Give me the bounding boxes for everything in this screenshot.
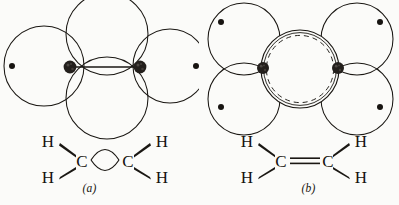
panel-a-bent-bond-model: H H C C H H (a) [0, 0, 199, 205]
hydrogen-proton-top-right [377, 19, 383, 25]
panel-label-a: (a) [0, 182, 189, 194]
hydrogen-proton-right [193, 63, 199, 69]
structural-formula-b: H H C C H H [241, 132, 367, 187]
carbon-nucleus-right [332, 62, 344, 74]
bond-h-lower-right [333, 167, 350, 179]
bond-h-lower-left [258, 167, 275, 179]
panel-a-drawing: H H C C H H [0, 0, 199, 205]
carbon-label-right: C [322, 152, 333, 171]
carbon-label-left: C [76, 152, 87, 171]
hydrogen-label-upper-left: H [241, 132, 253, 151]
bond-h-upper-left [258, 143, 275, 157]
hydrogen-proton-left [9, 63, 15, 69]
bond-h-lower-left [59, 167, 76, 179]
bent-bond-lens-upper [91, 150, 119, 161]
bond-h-upper-right [134, 143, 151, 158]
carbon-nucleus-left [64, 61, 77, 74]
structural-formula-a: H H C C H H [42, 132, 168, 187]
panel-b-sigma-pi-model: H H C C H H (b) [200, 0, 399, 205]
figure-caption-cutoff [2, 199, 262, 205]
panel-label-b: (b) [209, 182, 399, 194]
hydrogen-proton-bottom-right [377, 104, 383, 110]
bond-h-upper-right [333, 143, 350, 157]
carbon-label-left: C [275, 152, 286, 171]
carbon-nucleus-left [257, 62, 269, 74]
pi-orbital-outer [261, 30, 339, 108]
panel-b-drawing: H H C C H H [200, 0, 399, 205]
hydrogen-proton-bottom-left [218, 104, 224, 110]
bond-h-upper-left [59, 143, 76, 158]
hydrogen-proton-top-left [218, 19, 224, 25]
hydrogen-label-upper-right: H [156, 132, 168, 151]
hydrogen-label-upper-right: H [355, 132, 367, 151]
bent-bond-lens-lower [91, 160, 119, 171]
orbital-comparison-figure: H H C C H H (a) [0, 0, 399, 205]
bond-h-lower-right [134, 167, 151, 179]
hydrogen-label-upper-left: H [42, 132, 54, 151]
carbon-nucleus-right [134, 61, 147, 74]
carbon-label-right: C [122, 152, 133, 171]
